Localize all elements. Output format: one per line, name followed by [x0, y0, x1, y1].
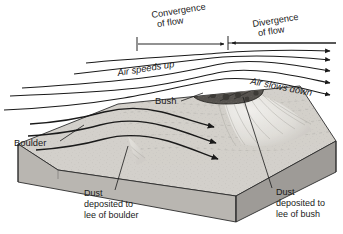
label-air-speeds-up: Air speeds up: [116, 58, 175, 78]
diagram-canvas: Convergence of flow Divergence of flow A…: [0, 0, 343, 234]
label-dust-bush: Dust deposited to lee of bush: [276, 187, 325, 219]
label-dust-bush-line3: lee of bush: [276, 209, 320, 219]
label-bush: Bush: [155, 95, 176, 106]
label-convergence: Convergence of flow: [151, 2, 208, 30]
label-dust-bush-line2: deposited to: [276, 198, 325, 208]
label-dust-boulder-line3: lee of boulder: [84, 210, 139, 220]
label-dust-boulder-line2: deposited to: [84, 199, 133, 209]
label-boulder: Boulder: [14, 137, 46, 148]
figure-root: Convergence of flow Divergence of flow A…: [0, 0, 343, 234]
label-dust-boulder-line1: Dust: [84, 188, 103, 198]
convergence-divergence-measure: [137, 36, 336, 51]
label-divergence: Divergence of flow: [252, 12, 301, 39]
label-dust-bush-line1: Dust: [276, 187, 295, 197]
